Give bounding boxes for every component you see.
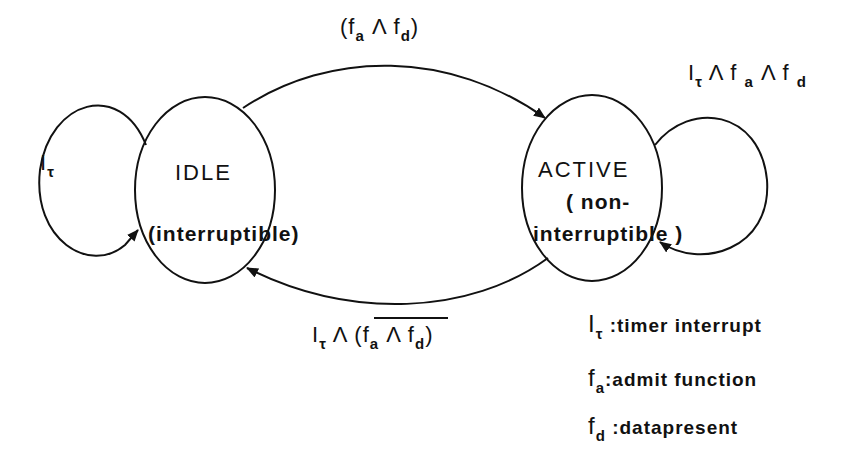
- legend-item-timer-interrupt: Iτ :timer interrupt: [588, 310, 762, 342]
- negation-overline: [374, 317, 448, 319]
- idle-state-subtitle: (interruptible): [148, 222, 300, 246]
- legend-symbol: f: [588, 364, 596, 391]
- active-state-name: ACTIVE: [538, 157, 629, 183]
- transition-active-to-idle: [247, 258, 548, 304]
- legend-subscript: τ: [596, 325, 604, 342]
- legend-description: :datapresent: [612, 417, 738, 438]
- legend-subscript: d: [596, 427, 606, 444]
- idle-self-loop-label: Iτ: [40, 150, 55, 180]
- active-state-subtitle-line2: interruptible ): [533, 222, 683, 246]
- active-state-subtitle-line1: ( non-: [566, 190, 630, 214]
- legend-symbol: f: [588, 412, 596, 439]
- legend-description: :timer interrupt: [610, 315, 762, 336]
- label-part: ): [425, 322, 433, 347]
- legend-item-datapresent: fd :datapresent: [588, 412, 738, 444]
- legend-subscript: a: [596, 379, 605, 396]
- active-to-idle-label: Iτ Λ (fa Λ fd): [312, 322, 433, 352]
- transition-idle-to-active: [243, 66, 545, 118]
- legend-symbol: I: [588, 310, 596, 337]
- legend-description: :admit function: [605, 369, 757, 390]
- d-subscript: d: [401, 27, 411, 44]
- a-subscript: a: [745, 73, 754, 90]
- tau-subscript: τ: [695, 73, 703, 90]
- tau-subscript: τ: [319, 335, 327, 352]
- label-part: ): [411, 14, 419, 39]
- active-state: [522, 95, 662, 281]
- idle-state: [135, 97, 275, 283]
- d-subscript: d: [415, 335, 425, 352]
- label-part: Λ f: [754, 60, 797, 85]
- d-subscript: d: [797, 73, 807, 90]
- label-part: Λ: [327, 322, 355, 347]
- label-part: (f: [340, 14, 355, 39]
- idle-state-name: IDLE: [175, 160, 232, 186]
- label-part: Λ f: [379, 322, 415, 347]
- idle-self-loop: [39, 105, 146, 255]
- idle-to-active-label: (fa Λ fd): [340, 14, 419, 44]
- label-part: Λ f: [703, 60, 745, 85]
- label-part: Λ f: [365, 14, 401, 39]
- legend-item-admit-function: fa:admit function: [588, 364, 757, 396]
- tau-subscript: τ: [47, 163, 55, 180]
- label-part: (f: [354, 322, 369, 347]
- active-self-loop-label: Iτ Λ f a Λ f d: [688, 60, 807, 90]
- a-subscript: a: [355, 27, 364, 44]
- a-subscript: a: [370, 335, 379, 352]
